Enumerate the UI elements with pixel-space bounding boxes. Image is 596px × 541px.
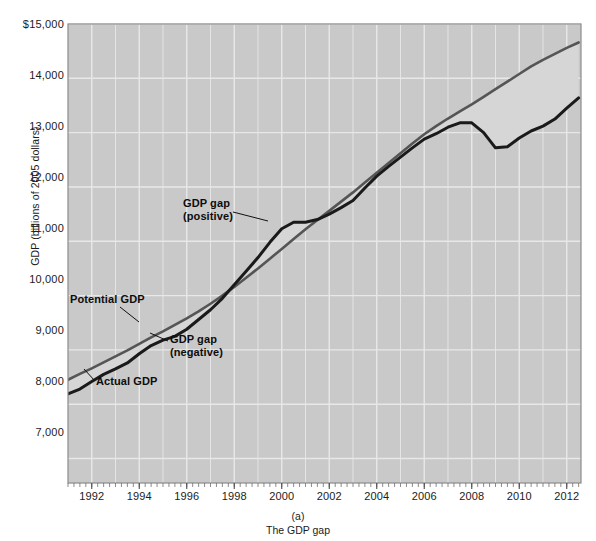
gdp-gap-chart xyxy=(0,0,596,541)
x-tick-label: 1992 xyxy=(67,490,117,502)
x-tick-label: 2004 xyxy=(352,490,402,502)
caption-title: The GDP gap xyxy=(0,523,596,537)
x-tick-label: 2002 xyxy=(304,490,354,502)
annotation-potential-gdp: Potential GDP xyxy=(70,293,145,306)
annotation-gdp-gap-positive: GDP gap (positive) xyxy=(183,197,233,223)
caption-label: (a) xyxy=(0,509,596,523)
gdp-gap-figure: GDP (billions of 2005 dollars) $15,000 1… xyxy=(0,0,596,541)
figure-caption: (a) The GDP gap xyxy=(0,509,596,537)
x-tick-label: 1994 xyxy=(114,490,164,502)
x-tick-label: 2008 xyxy=(447,490,497,502)
x-tick-label: 2012 xyxy=(542,490,592,502)
x-tick-label: 2000 xyxy=(257,490,307,502)
x-tick-label: 2010 xyxy=(494,490,544,502)
x-tick-label: 1996 xyxy=(162,490,212,502)
x-tick-label: 2006 xyxy=(399,490,449,502)
annotation-actual-gdp: Actual GDP xyxy=(96,375,158,388)
x-tick-label: 1998 xyxy=(209,490,259,502)
x-axis-tick-labels: 1992199419961998200020022004200620082010… xyxy=(0,490,596,508)
annotation-gdp-gap-negative: GDP gap (negative) xyxy=(170,333,223,359)
